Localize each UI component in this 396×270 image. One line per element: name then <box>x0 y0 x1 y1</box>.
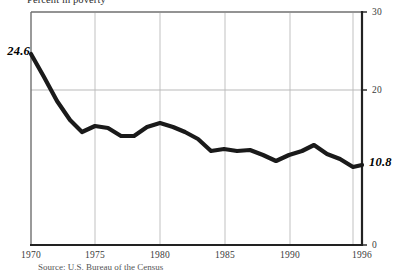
poverty-rate-chart-figure: Percent in poverty <box>0 0 396 270</box>
source-note: Source: U.S. Bureau of the Census <box>38 262 163 270</box>
end-value-label: 10.8 <box>369 155 392 170</box>
chart-plot-area <box>0 0 396 270</box>
x-tick-label-1970: 1970 <box>21 250 41 260</box>
x-tick-label-1990: 1990 <box>280 250 300 260</box>
x-tick-label-1996: 1996 <box>352 250 372 260</box>
vertical-gridlines <box>95 13 353 244</box>
x-tick-label-1980: 1980 <box>150 250 170 260</box>
x-tick-label-1975: 1975 <box>85 250 105 260</box>
poverty-rate-line <box>31 54 362 167</box>
y-tick-label-0: 0 <box>372 240 377 250</box>
y-tick-label-30: 30 <box>372 7 382 17</box>
start-value-label: 24.6 <box>7 44 30 59</box>
x-tick-label-1985: 1985 <box>215 250 235 260</box>
y-tick-label-20: 20 <box>372 85 382 95</box>
